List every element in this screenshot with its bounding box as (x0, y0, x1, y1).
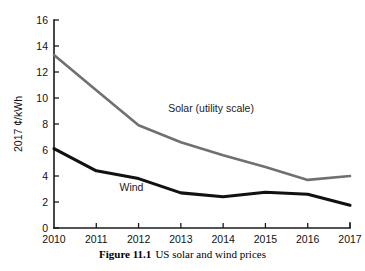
line-chart: 0246810121416 20102011201220132014201520… (0, 0, 365, 244)
x-tick-label: 2013 (169, 233, 193, 244)
y-axis-ticks: 0246810121416 (36, 14, 59, 234)
x-tick-label: 2015 (254, 233, 278, 244)
y-tick-label: 0 (42, 222, 48, 234)
series-line-wind (54, 149, 350, 206)
figure-caption: Figure 11.1US solar and wind prices (0, 248, 365, 260)
y-tick-label: 4 (42, 170, 48, 182)
y-axis-title: 2017 ¢/kWh (12, 96, 24, 152)
x-tick-label: 2012 (127, 233, 151, 244)
x-tick-label: 2016 (296, 233, 320, 244)
series-label-wind: Wind (120, 181, 144, 193)
y-tick-label: 14 (36, 40, 48, 52)
chart-canvas: 0246810121416 20102011201220132014201520… (0, 0, 365, 244)
x-tick-label: 2017 (338, 233, 362, 244)
x-axis-ticks: 20102011201220132014201520162017 (42, 223, 362, 244)
x-tick-label: 2011 (85, 233, 108, 244)
series-line-solar (54, 55, 350, 180)
x-tick-label: 2010 (42, 233, 66, 244)
figure-caption-text: US solar and wind prices (155, 248, 266, 260)
y-tick-label: 6 (42, 144, 48, 156)
y-tick-label: 10 (36, 92, 48, 104)
x-tick-label: 2014 (211, 233, 235, 244)
y-tick-label: 12 (36, 66, 48, 78)
y-tick-label: 8 (42, 118, 48, 130)
figure-number: Figure 11.1 (99, 248, 151, 260)
y-tick-label: 16 (36, 14, 48, 26)
series-label-solar: Solar (utility scale) (168, 102, 254, 114)
series-lines (54, 55, 350, 205)
figure-container: 0246810121416 20102011201220132014201520… (0, 0, 365, 271)
y-tick-label: 2 (42, 196, 48, 208)
